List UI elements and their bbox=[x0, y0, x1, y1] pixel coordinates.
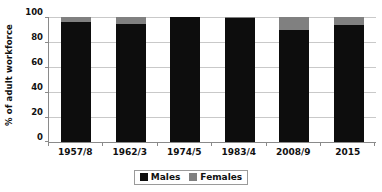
y-axis-title: % of adult workforce bbox=[0, 0, 18, 150]
x-axis-tick-labels: 1957/8 1962/3 1974/5 1983/4 2008/9 2015 bbox=[48, 147, 375, 161]
x-tick-label-2008-9: 2008/9 bbox=[266, 147, 321, 161]
legend-entry-females[interactable]: Females bbox=[189, 172, 242, 182]
bar-segment-females[interactable] bbox=[116, 17, 146, 24]
x-tick-label-1962-3: 1962/3 bbox=[103, 147, 158, 161]
legend-box: Males Females bbox=[134, 170, 248, 185]
y-axis-tick-labels: 100 80 60 40 20 0 bbox=[18, 12, 46, 144]
bar-stack[interactable] bbox=[61, 17, 91, 142]
bar-stack[interactable] bbox=[225, 17, 255, 142]
bar-slot bbox=[322, 17, 377, 142]
bar-slot bbox=[104, 17, 159, 142]
bar-slot bbox=[213, 17, 268, 142]
x-tick-label-2015: 2015 bbox=[321, 147, 376, 161]
x-tick-mark bbox=[48, 142, 49, 146]
bar-segment-females[interactable] bbox=[279, 17, 309, 30]
bar-slot bbox=[158, 17, 213, 142]
bar-stack[interactable] bbox=[116, 17, 146, 142]
bar-stack[interactable] bbox=[279, 17, 309, 142]
x-tick-mark bbox=[157, 142, 158, 146]
x-tick-mark bbox=[211, 142, 212, 146]
bar-segment-males[interactable] bbox=[279, 30, 309, 143]
x-tick-label-1974-5: 1974/5 bbox=[157, 147, 212, 161]
y-tick-label-80: 80 bbox=[31, 32, 43, 42]
y-tick-label-100: 100 bbox=[25, 7, 43, 17]
bar-group bbox=[49, 17, 376, 142]
plot-area bbox=[48, 17, 376, 143]
x-tick-mark bbox=[102, 142, 103, 146]
bar-slot bbox=[49, 17, 104, 142]
bar-stack[interactable] bbox=[170, 17, 200, 142]
bar-segment-males[interactable] bbox=[170, 17, 200, 142]
bar-segment-males[interactable] bbox=[225, 18, 255, 142]
x-tick-label-1983-4: 1983/4 bbox=[212, 147, 267, 161]
y-tick-label-0: 0 bbox=[37, 132, 43, 142]
x-tick-mark bbox=[266, 142, 267, 146]
bar-stack[interactable] bbox=[334, 17, 364, 142]
bar-segment-males[interactable] bbox=[334, 25, 364, 143]
y-tick-label-20: 20 bbox=[31, 107, 43, 117]
legend-label-females: Females bbox=[200, 172, 242, 182]
bar-segment-males[interactable] bbox=[116, 24, 146, 142]
bar-slot bbox=[267, 17, 322, 142]
bar-segment-males[interactable] bbox=[61, 22, 91, 142]
legend: Males Females bbox=[0, 170, 382, 185]
legend-label-males: Males bbox=[151, 172, 181, 182]
legend-swatch-males-icon bbox=[140, 173, 148, 181]
x-tick-label-1957-8: 1957/8 bbox=[48, 147, 103, 161]
legend-swatch-females-icon bbox=[189, 173, 197, 181]
y-tick-label-40: 40 bbox=[31, 82, 43, 92]
x-tick-mark bbox=[320, 142, 321, 146]
y-axis-title-label: % of adult workforce bbox=[4, 24, 14, 126]
x-axis-tick-marks bbox=[48, 142, 376, 146]
x-tick-mark bbox=[374, 142, 375, 146]
y-tick-label-60: 60 bbox=[31, 57, 43, 67]
bar-segment-females[interactable] bbox=[334, 17, 364, 25]
stacked-bar-chart: % of adult workforce 100 80 60 40 20 0 bbox=[0, 0, 382, 192]
legend-entry-males[interactable]: Males bbox=[140, 172, 181, 182]
